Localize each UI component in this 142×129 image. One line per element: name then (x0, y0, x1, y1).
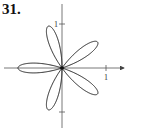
origin-dot (60, 66, 64, 70)
y-tick-label: 1 (54, 20, 58, 29)
rose-curve-diagram: 1 1 (0, 0, 142, 129)
x-tick-label: 1 (104, 73, 108, 82)
